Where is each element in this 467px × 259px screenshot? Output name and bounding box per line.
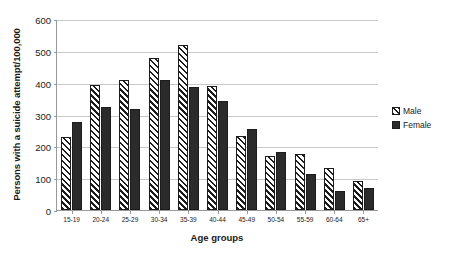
bar-group: 35-39 <box>174 20 203 210</box>
bar-male-40-44 <box>207 86 217 210</box>
bar-female-15-19 <box>72 122 82 210</box>
bar-female-65+ <box>364 188 374 210</box>
bar-female-50-54 <box>276 152 286 210</box>
x-axis-tick-label: 45-49 <box>238 216 255 223</box>
bar-groups: 15-1920-2425-2930-3435-3940-4445-4950-54… <box>57 20 378 210</box>
x-axis-tick-label: 35-39 <box>180 216 197 223</box>
bar-male-45-49 <box>236 136 246 210</box>
y-axis-tick-label: 300 <box>17 110 51 121</box>
bar-male-65+ <box>353 181 363 210</box>
bar-male-35-39 <box>178 45 188 210</box>
x-axis-tick-label: 20-24 <box>92 216 109 223</box>
x-axis-tick-mark <box>276 210 277 214</box>
legend-swatch-female-icon <box>392 121 400 129</box>
x-axis-tick-label: 30-34 <box>151 216 168 223</box>
bar-group: 20-24 <box>86 20 115 210</box>
x-axis-tick-label: 25-29 <box>122 216 139 223</box>
bar-male-55-59 <box>295 154 305 210</box>
bar-male-20-24 <box>90 85 100 210</box>
bar-female-55-59 <box>306 174 316 210</box>
x-axis-tick-mark <box>247 210 248 214</box>
bar-group: 60-64 <box>320 20 349 210</box>
y-axis-tick-label: 200 <box>17 142 51 153</box>
bar-female-25-29 <box>130 109 140 210</box>
x-axis-tick-mark <box>101 210 102 214</box>
x-axis-tick-label: 60-64 <box>326 216 343 223</box>
bar-male-30-34 <box>149 58 159 210</box>
x-axis-tick-mark <box>334 210 335 214</box>
legend: Male Female <box>392 106 431 130</box>
legend-item-male: Male <box>392 106 431 116</box>
bar-group: 40-44 <box>203 20 232 210</box>
bar-group: 65+ <box>349 20 378 210</box>
y-axis-tick-label: 600 <box>17 15 51 26</box>
x-axis-tick-label: 40-44 <box>209 216 226 223</box>
bar-female-35-39 <box>189 87 199 210</box>
bar-male-60-64 <box>324 168 334 210</box>
bar-female-20-24 <box>101 107 111 210</box>
x-axis-tick-label: 50-54 <box>268 216 285 223</box>
y-axis-tick-label: 400 <box>17 78 51 89</box>
bar-group: 30-34 <box>145 20 174 210</box>
x-axis-tick-label: 15-19 <box>63 216 80 223</box>
x-axis-tick-label: 55-59 <box>297 216 314 223</box>
x-axis-tick-label: 65+ <box>358 216 369 223</box>
y-axis-tick-mark <box>54 211 57 212</box>
x-axis-tick-mark <box>363 210 364 214</box>
y-axis-tick-label: 100 <box>17 174 51 185</box>
bar-group: 55-59 <box>291 20 320 210</box>
bar-chart-figure: Persons with a suicide attempt/100,000 0… <box>0 0 467 259</box>
legend-swatch-male-icon <box>392 107 400 115</box>
bar-male-15-19 <box>61 137 71 210</box>
plot-area: 0100200300400500600 15-1920-2425-2930-34… <box>56 20 378 211</box>
x-axis-tick-mark <box>72 210 73 214</box>
x-axis-tick-mark <box>305 210 306 214</box>
bar-male-25-29 <box>119 80 129 210</box>
bar-female-40-44 <box>218 101 228 210</box>
y-axis-tick-label: 0 <box>17 206 51 217</box>
legend-label-male: Male <box>403 106 421 116</box>
legend-item-female: Female <box>392 120 431 130</box>
bar-group: 50-54 <box>261 20 290 210</box>
bar-group: 15-19 <box>57 20 86 210</box>
bar-group: 25-29 <box>115 20 144 210</box>
y-axis-tick-label: 500 <box>17 46 51 57</box>
x-axis-tick-mark <box>159 210 160 214</box>
legend-label-female: Female <box>403 120 431 130</box>
bar-female-30-34 <box>160 80 170 210</box>
bar-male-50-54 <box>265 156 275 210</box>
x-axis-title: Age groups <box>56 232 378 243</box>
x-axis-tick-mark <box>130 210 131 214</box>
bar-female-45-49 <box>247 129 257 210</box>
bar-group: 45-49 <box>232 20 261 210</box>
bar-female-60-64 <box>335 191 345 210</box>
x-axis-tick-mark <box>188 210 189 214</box>
x-axis-tick-mark <box>218 210 219 214</box>
